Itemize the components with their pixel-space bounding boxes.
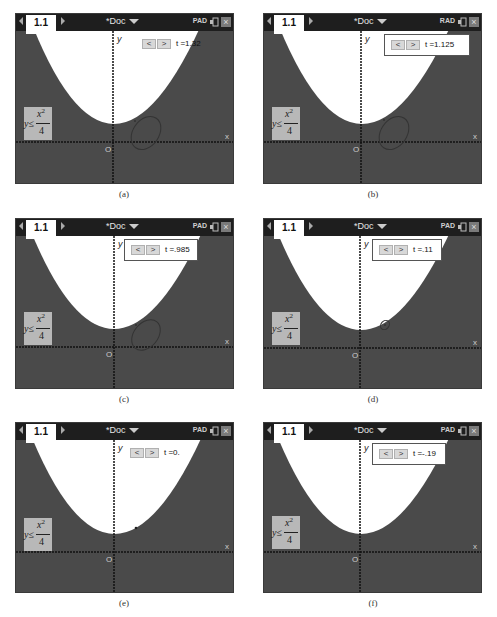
next-page-arrow-icon[interactable] bbox=[61, 17, 65, 25]
t-slider[interactable]: < > t =-.19 bbox=[372, 443, 446, 465]
close-icon[interactable]: × bbox=[469, 17, 479, 27]
slider-increment-button[interactable]: > bbox=[394, 245, 408, 255]
doc-toolbar: 1.1 *Doc PAD × bbox=[16, 423, 233, 440]
inequality-label[interactable]: y≤ x2 4 bbox=[272, 516, 300, 549]
slider-decrement-button[interactable]: < bbox=[130, 448, 144, 458]
caption-f: (f) bbox=[343, 598, 403, 608]
page-tab[interactable]: 1.1 bbox=[26, 424, 56, 443]
chevron-down-icon bbox=[377, 428, 387, 433]
slider-increment-button[interactable]: > bbox=[146, 245, 160, 255]
y-axis-label: y bbox=[116, 34, 122, 44]
calculator-screen-b: 1.1 *Doc RAD × y x O < > t =1.125 y≤ x2 … bbox=[263, 13, 482, 184]
slider-increment-button[interactable]: > bbox=[157, 39, 171, 49]
battery-icon bbox=[210, 426, 219, 436]
slider-value: t =-.19 bbox=[413, 449, 436, 458]
chevron-down-icon bbox=[377, 224, 387, 229]
calculator-screen-c: 1.1 *Doc PAD × y x O < > t =.985 y≤ x2 4 bbox=[15, 218, 234, 389]
fraction-bar bbox=[284, 328, 298, 329]
ellipse-center-point bbox=[135, 527, 138, 530]
close-icon[interactable]: × bbox=[469, 222, 479, 232]
ellipse-center-point bbox=[384, 324, 386, 326]
slider-value: t =1.32 bbox=[176, 39, 201, 48]
ellipse-center-point bbox=[135, 324, 137, 326]
t-slider[interactable]: < > t =0. bbox=[124, 443, 198, 465]
caption-e: (e) bbox=[94, 598, 154, 608]
fraction-bar bbox=[36, 123, 50, 124]
fraction-bar bbox=[36, 534, 50, 535]
battery-icon bbox=[210, 17, 219, 27]
document-title[interactable]: *Doc bbox=[106, 221, 139, 231]
inequality-label[interactable]: y≤ x2 4 bbox=[272, 107, 300, 140]
document-title[interactable]: *Doc bbox=[354, 221, 387, 231]
battery-icon bbox=[458, 17, 467, 27]
slider-decrement-button[interactable]: < bbox=[142, 39, 156, 49]
fraction-bar bbox=[36, 328, 50, 329]
chevron-down-icon bbox=[129, 19, 139, 24]
close-icon[interactable]: × bbox=[469, 426, 479, 436]
prev-page-arrow-icon[interactable] bbox=[19, 222, 23, 230]
slider-decrement-button[interactable]: < bbox=[131, 245, 145, 255]
prev-page-arrow-icon[interactable] bbox=[267, 17, 271, 25]
next-page-arrow-icon[interactable] bbox=[61, 222, 65, 230]
fraction-bar bbox=[284, 123, 298, 124]
page-tab[interactable]: 1.1 bbox=[274, 220, 304, 239]
calculator-screen-e: 1.1 *Doc PAD × y x O < > t =0. y≤ x2 4 bbox=[15, 422, 234, 593]
prev-page-arrow-icon[interactable] bbox=[19, 17, 23, 25]
caption-d: (d) bbox=[343, 394, 403, 404]
document-title[interactable]: *Doc bbox=[354, 425, 387, 435]
prev-page-arrow-icon[interactable] bbox=[19, 426, 23, 434]
next-page-arrow-icon[interactable] bbox=[309, 426, 313, 434]
doc-toolbar: 1.1 *Doc RAD × bbox=[264, 14, 481, 31]
inequality-label[interactable]: y≤ x2 4 bbox=[24, 107, 52, 140]
battery-icon bbox=[210, 222, 219, 232]
document-title[interactable]: *Doc bbox=[106, 425, 139, 435]
x-axis-label: x bbox=[225, 542, 229, 551]
inequality-label[interactable]: y≤ x2 4 bbox=[24, 312, 52, 345]
close-icon[interactable]: × bbox=[221, 426, 231, 436]
inequality-label[interactable]: y≤ x2 4 bbox=[272, 312, 300, 345]
slider-decrement-button[interactable]: < bbox=[379, 449, 393, 459]
chevron-down-icon bbox=[377, 19, 387, 24]
origin-label: O bbox=[353, 145, 359, 154]
caption-c: (c) bbox=[94, 394, 154, 404]
page-tab[interactable]: 1.1 bbox=[274, 15, 304, 34]
t-slider[interactable]: < > t =1.125 bbox=[384, 34, 470, 56]
slider-increment-button[interactable]: > bbox=[406, 40, 420, 50]
t-slider[interactable]: < > t =1.32 bbox=[136, 34, 222, 56]
page-tab[interactable]: 1.1 bbox=[274, 424, 304, 443]
next-page-arrow-icon[interactable] bbox=[61, 426, 65, 434]
document-title[interactable]: *Doc bbox=[354, 16, 387, 26]
x-axis-label: x bbox=[225, 132, 229, 141]
calculator-screen-f: 1.1 *Doc PAD × y x O < > t =-.19 y≤ x2 4 bbox=[263, 422, 482, 593]
ellipse-center-point bbox=[134, 120, 136, 122]
origin-label: O bbox=[106, 350, 112, 359]
origin-label: O bbox=[352, 351, 358, 360]
next-page-arrow-icon[interactable] bbox=[309, 222, 313, 230]
y-axis-label: y bbox=[364, 34, 370, 44]
doc-toolbar: 1.1 *Doc PAD × bbox=[264, 219, 481, 236]
chevron-down-icon bbox=[129, 428, 139, 433]
t-slider[interactable]: < > t =.11 bbox=[372, 239, 442, 261]
slider-increment-button[interactable]: > bbox=[394, 449, 408, 459]
angle-mode-indicator: PAD bbox=[441, 222, 455, 229]
caption-b: (b) bbox=[343, 189, 403, 199]
origin-label: O bbox=[352, 555, 358, 564]
page-tab[interactable]: 1.1 bbox=[26, 220, 56, 239]
x-axis-label: x bbox=[473, 338, 477, 347]
inequality-label[interactable]: y≤ x2 4 bbox=[24, 518, 52, 551]
t-slider[interactable]: < > t =.985 bbox=[124, 239, 198, 261]
close-icon[interactable]: × bbox=[221, 222, 231, 232]
prev-page-arrow-icon[interactable] bbox=[267, 426, 271, 434]
prev-page-arrow-icon[interactable] bbox=[267, 222, 271, 230]
slider-decrement-button[interactable]: < bbox=[379, 245, 393, 255]
doc-toolbar: 1.1 *Doc PAD × bbox=[16, 14, 233, 31]
page-tab[interactable]: 1.1 bbox=[26, 15, 56, 34]
slider-increment-button[interactable]: > bbox=[145, 448, 159, 458]
document-title[interactable]: *Doc bbox=[106, 16, 139, 26]
slider-decrement-button[interactable]: < bbox=[391, 40, 405, 50]
next-page-arrow-icon[interactable] bbox=[309, 17, 313, 25]
y-axis-label: y bbox=[117, 443, 123, 453]
close-icon[interactable]: × bbox=[221, 17, 231, 27]
y-axis-label: y bbox=[363, 443, 369, 453]
origin-label: O bbox=[106, 555, 112, 564]
